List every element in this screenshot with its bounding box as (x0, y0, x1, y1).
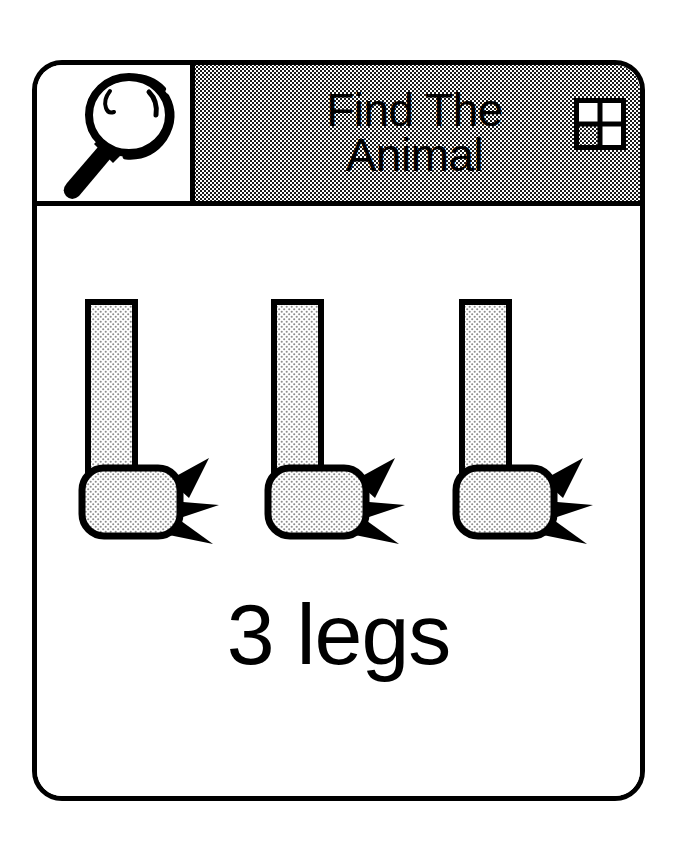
card-header: Find The Animal (37, 65, 640, 206)
caption-text: 3 legs (37, 591, 640, 677)
leg-figure[interactable] (77, 298, 227, 548)
magnifying-glass-icon[interactable] (46, 68, 191, 201)
header-icon-cell[interactable] (37, 65, 195, 201)
find-the-animal-card: Find The Animal (32, 60, 645, 801)
grid-2x2-icon[interactable] (574, 98, 626, 150)
card-body: 3 legs (37, 206, 640, 796)
card-title: Find The Animal (326, 88, 503, 178)
leg-figure[interactable] (451, 298, 601, 548)
header-title-cell: Find The Animal (195, 65, 640, 201)
figure-row (37, 298, 640, 548)
leg-figure[interactable] (263, 298, 413, 548)
